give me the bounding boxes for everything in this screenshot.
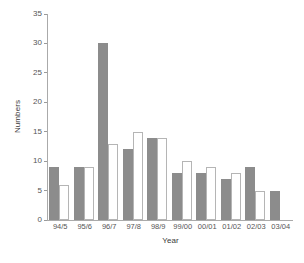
bar-series-open-01/02 [231, 173, 241, 220]
bar-series-filled-98/9 [147, 138, 157, 220]
bar-group [97, 14, 122, 220]
y-tick-label: 25 [33, 68, 42, 78]
x-axis-line [47, 220, 293, 221]
y-axis: 05101520253035 [0, 0, 48, 263]
y-tick-label: 5 [38, 186, 42, 196]
bar-series-filled-99/00 [172, 173, 182, 220]
plot-area [48, 14, 293, 220]
bar-chart: Numbers 05101520253035 94/595/696/797/89… [0, 0, 304, 263]
bar-series-open-97/8 [133, 132, 143, 220]
bar-series-open-98/9 [157, 138, 167, 220]
bar-series-filled-95/6 [74, 167, 84, 220]
bar-series-open-00/01 [206, 167, 216, 220]
bar-group [171, 14, 196, 220]
y-tick-label: 30 [33, 38, 42, 48]
bar-group [73, 14, 98, 220]
bar-series-open-94/5 [59, 185, 69, 220]
bar-group [269, 14, 294, 220]
bar-group [220, 14, 245, 220]
bar-group [122, 14, 147, 220]
bar-series-filled-94/5 [49, 167, 59, 220]
bar-series-filled-02/03 [245, 167, 255, 220]
y-tick-label: 35 [33, 9, 42, 19]
y-tick-label: 15 [33, 127, 42, 137]
bar-series-open-96/7 [108, 144, 118, 221]
y-tick-label: 0 [38, 215, 42, 225]
bar-group [195, 14, 220, 220]
y-tick-label: 10 [33, 156, 42, 166]
bar-series-filled-96/7 [98, 43, 108, 220]
bar-group [244, 14, 269, 220]
bar-series-filled-03/04 [270, 191, 280, 220]
bar-group [146, 14, 171, 220]
bar-group [48, 14, 73, 220]
x-tick-label: 03/04 [266, 222, 296, 231]
bar-series-open-95/6 [84, 167, 94, 220]
x-axis-title: Year [48, 236, 293, 245]
bar-series-open-99/00 [182, 161, 192, 220]
bar-series-filled-00/01 [196, 173, 206, 220]
bar-series-filled-01/02 [221, 179, 231, 220]
y-tick-label: 20 [33, 97, 42, 107]
bar-series-open-02/03 [255, 191, 265, 220]
bar-series-filled-97/8 [123, 149, 133, 220]
